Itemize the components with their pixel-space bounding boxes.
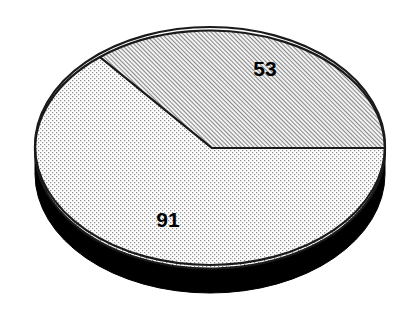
slice-label-53: 53 — [253, 57, 276, 80]
pie-chart: 53 91 — [0, 0, 414, 315]
slice-label-91: 91 — [156, 208, 180, 231]
pie-chart-canvas: 53 91 — [0, 0, 414, 315]
